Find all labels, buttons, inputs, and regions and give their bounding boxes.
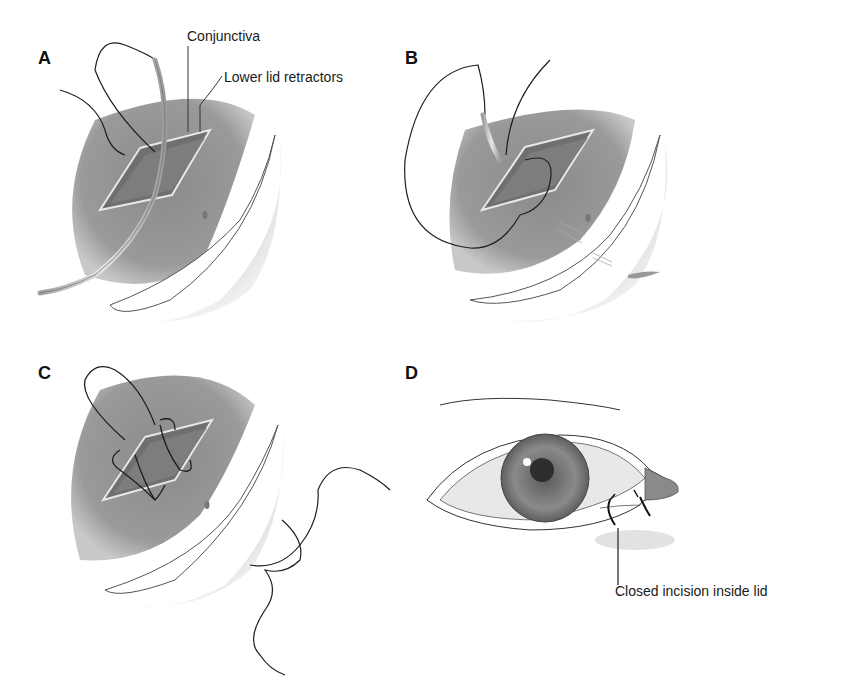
panel-label-d: D [405, 363, 418, 384]
panel-d-illustration [427, 398, 678, 585]
panel-label-a: A [38, 48, 51, 69]
conjunctiva-label: Conjunctiva [187, 28, 260, 44]
panel-label-c: C [38, 363, 51, 384]
lower-lid-retractors-label: Lower lid retractors [224, 69, 343, 85]
panel-c-illustration [71, 367, 390, 675]
panel-label-b: B [405, 48, 418, 69]
panel-b-illustration [405, 60, 668, 323]
closed-incision-label: Closed incision inside lid [615, 583, 768, 599]
